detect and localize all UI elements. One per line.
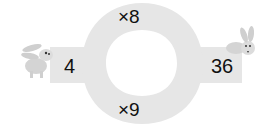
multiplication-ring-puzzle: ×8 ×9 4 36 [0,0,278,131]
ring-shape [82,3,203,124]
rabbit-icon [21,43,53,78]
bottom-operation: ×9 [118,100,140,119]
rabbit-icon [226,26,255,55]
start-value: 4 [64,56,75,76]
end-value: 36 [211,56,233,76]
top-operation: ×8 [118,7,140,26]
